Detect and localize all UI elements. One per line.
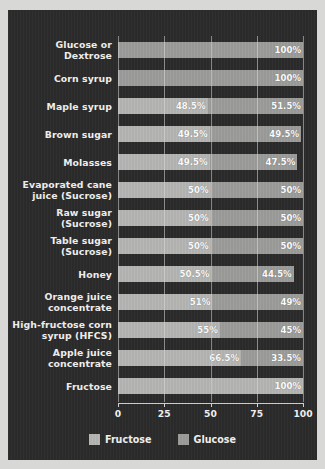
bar-value-label: 55%	[197, 325, 218, 335]
bar-segment-fructose: 48.5%	[118, 98, 208, 114]
bar-row: Orange juiceconcentrate51%49%	[8, 288, 317, 316]
legend-item[interactable]: Fructose	[89, 434, 152, 445]
axis-tick-label: 50	[204, 408, 217, 419]
bar-segment-fructose: 49.5%	[118, 126, 210, 142]
bar-row: Maple syrup48.5%51.5%	[8, 92, 317, 120]
bar-track: 50.5%44.5%	[118, 266, 303, 282]
bar-track: 48.5%51.5%	[118, 98, 303, 114]
bar-segment-glucose: 50%	[211, 238, 304, 254]
axis-tick	[118, 403, 119, 407]
axis-tick-label: 75	[250, 408, 263, 419]
category-label: Raw sugar(Sucrose)	[8, 204, 112, 232]
bar-track: 66.5%33.5%	[118, 350, 303, 366]
bar-row: Brown sugar49.5%49.5%	[8, 120, 317, 148]
bar-row: Glucose or Dextrose100%	[8, 36, 317, 64]
axis-tick-label: 25	[158, 408, 171, 419]
bar-row: Evaporated canejuice (Sucrose)50%50%	[8, 176, 317, 204]
legend-item[interactable]: Glucose	[178, 434, 237, 445]
bar-row: High-fructose cornsyrup (HFCS)55%45%	[8, 316, 317, 344]
bar-value-label: 50%	[188, 241, 209, 251]
category-label-line: (Sucrose)	[61, 218, 112, 229]
bar-segment-glucose: 100%	[118, 70, 303, 86]
bar-value-label: 33.5%	[271, 353, 301, 363]
category-label-line: juice (Sucrose)	[32, 190, 112, 201]
bar-row: Apple juiceconcentrate66.5%33.5%	[8, 344, 317, 372]
bar-value-label: 51%	[190, 297, 211, 307]
category-label-line: Molasses	[63, 157, 112, 168]
category-label: Glucose or Dextrose	[8, 36, 112, 64]
bar-segment-glucose: 50%	[211, 210, 304, 226]
bar-track: 55%45%	[118, 322, 303, 338]
bar-track: 49.5%47.5%	[118, 154, 303, 170]
bar-row: Raw sugar(Sucrose)50%50%	[8, 204, 317, 232]
category-label-line: Fructose	[66, 381, 112, 392]
category-label: Evaporated canejuice (Sucrose)	[8, 176, 112, 204]
category-label-line: concentrate	[48, 302, 112, 313]
bar-value-label: 48.5%	[176, 101, 206, 111]
bar-track: 51%49%	[118, 294, 303, 310]
bar-segment-fructose: 66.5%	[118, 350, 241, 366]
axis-tick	[257, 403, 258, 407]
category-label: Orange juiceconcentrate	[8, 288, 112, 316]
category-label: Fructose	[8, 372, 112, 400]
chart-container: Glucose or Dextrose100%Corn syrup100%Map…	[8, 10, 317, 460]
bar-segment-glucose: 51.5%	[208, 98, 303, 114]
bar-segment-fructose: 51%	[118, 294, 212, 310]
axis-tick-label: 0	[115, 408, 121, 419]
category-label: Molasses	[8, 148, 112, 176]
category-label-line: Glucose or Dextrose	[8, 39, 112, 61]
bar-value-label: 49.5%	[269, 129, 299, 139]
bar-segment-glucose: 49%	[212, 294, 303, 310]
category-label-line: Orange juice	[44, 291, 112, 302]
category-label-line: Evaporated cane	[23, 179, 112, 190]
bar-segment-glucose: 33.5%	[241, 350, 303, 366]
bar-segment-glucose: 50%	[211, 182, 304, 198]
axis-tick	[303, 403, 304, 407]
bar-value-label: 100%	[274, 381, 301, 391]
bar-value-label: 100%	[274, 45, 301, 55]
bar-segment-glucose: 49.5%	[210, 126, 302, 142]
category-label-line: Apple juice	[53, 347, 112, 358]
bar-value-label: 49.5%	[178, 129, 208, 139]
bar-track: 50%50%	[118, 238, 303, 254]
bar-track: 100%	[118, 70, 303, 86]
legend-swatch-icon	[89, 434, 100, 445]
axis-tick-label: 100	[293, 408, 312, 419]
bar-track: 100%	[118, 378, 303, 394]
category-label-line: Maple syrup	[47, 101, 112, 112]
legend-swatch-icon	[178, 434, 189, 445]
bar-segment-glucose: 47.5%	[210, 154, 298, 170]
x-axis: 0255075100	[118, 403, 303, 423]
category-label-line: Honey	[78, 269, 112, 280]
category-label: Brown sugar	[8, 120, 112, 148]
category-label-line: Brown sugar	[45, 129, 112, 140]
bar-segment-fructose: 50.5%	[118, 266, 211, 282]
legend-label: Glucose	[194, 434, 237, 445]
chart-legend: FructoseGlucose	[8, 434, 317, 445]
bar-track: 50%50%	[118, 182, 303, 198]
bar-value-label: 49%	[280, 297, 301, 307]
axis-tick	[164, 403, 165, 407]
bar-value-label: 66.5%	[209, 353, 239, 363]
axis-tick	[211, 403, 212, 407]
bar-value-label: 50%	[280, 213, 301, 223]
plot-area: Glucose or Dextrose100%Corn syrup100%Map…	[8, 10, 317, 460]
bar-segment-fructose: 50%	[118, 210, 211, 226]
bar-row: Table sugar(Sucrose)50%50%	[8, 232, 317, 260]
legend-label: Fructose	[105, 434, 152, 445]
bar-row: Fructose100%	[8, 372, 317, 400]
category-label-line: syrup (HFCS)	[42, 330, 112, 341]
category-label: Table sugar(Sucrose)	[8, 232, 112, 260]
bar-track: 100%	[118, 42, 303, 58]
bar-segment-fructose: 50%	[118, 238, 211, 254]
bar-segment-fructose: 100%	[118, 378, 303, 394]
bar-value-label: 49.5%	[178, 157, 208, 167]
bar-value-label: 50%	[280, 241, 301, 251]
bar-segment-fructose: 55%	[118, 322, 220, 338]
category-label-line: High-fructose corn	[12, 319, 112, 330]
bar-value-label: 100%	[274, 73, 301, 83]
bar-track: 50%50%	[118, 210, 303, 226]
bar-value-label: 50%	[280, 185, 301, 195]
bar-value-label: 47.5%	[266, 157, 296, 167]
bar-value-label: 45%	[280, 325, 301, 335]
